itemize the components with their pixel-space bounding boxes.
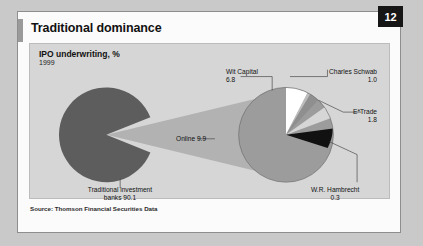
label-traditional: Traditional investment banks 90.1 (64, 186, 176, 203)
label-etrade-name: E*Trade (353, 108, 377, 116)
label-wit-capital-name: Wit Capital (226, 68, 258, 76)
label-wit-capital: Wit Capital 6.8 (226, 68, 258, 85)
label-online-text: Online 9.9 (176, 135, 206, 142)
leader-hambrecht (329, 142, 357, 182)
label-charles-schwab: Charles Schwab 1.0 (329, 68, 377, 85)
chart-panel: IPO underwriting, % 1999 (29, 43, 390, 199)
source-note: Source: Thomson Financial Securities Dat… (30, 205, 158, 212)
label-traditional-line1: Traditional investment (64, 186, 176, 194)
label-charles-schwab-name: Charles Schwab (329, 68, 377, 76)
title-accent-tab (18, 19, 23, 42)
page-number-badge: 12 (378, 6, 403, 27)
label-traditional-line2: banks 90.1 (64, 194, 176, 202)
label-wit-capital-value: 6.8 (226, 76, 258, 84)
label-etrade: E*Trade 1.8 (353, 108, 377, 125)
label-hambrecht-name: W.R. Hambrecht (311, 186, 359, 194)
label-charles-schwab-value: 1.0 (329, 76, 377, 84)
detail-pie (225, 74, 347, 196)
label-etrade-value: 1.8 (353, 116, 377, 124)
label-online: Online 9.9 (176, 135, 206, 143)
label-hambrecht: W.R. Hambrecht 0.3 (311, 186, 359, 203)
leader-charles-schwab (290, 70, 328, 77)
page-title: Traditional dominance (31, 21, 162, 35)
slide: Traditional dominance 12 IPO underwritin… (17, 11, 401, 233)
label-hambrecht-value: 0.3 (311, 194, 359, 202)
